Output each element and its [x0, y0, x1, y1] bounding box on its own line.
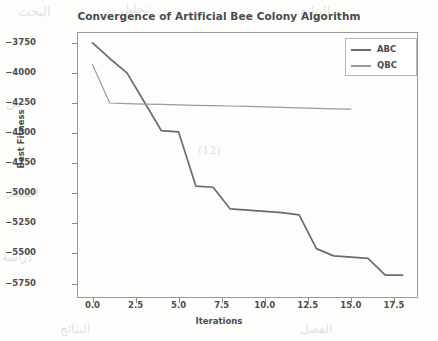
legend-label-qbc: QBC [377, 60, 397, 70]
y-tick-mark [72, 163, 77, 164]
legend-swatch-qbc [351, 65, 371, 67]
y-axis-label: Best Fitness [16, 94, 26, 184]
legend-item-abc[interactable]: ABC [351, 43, 415, 57]
legend-label-abc: ABC [377, 44, 396, 54]
x-tick-label: 2.5 [116, 300, 156, 310]
x-tick-label: 12.5 [288, 300, 328, 310]
y-tick-mark [72, 253, 77, 254]
y-tick-mark [72, 43, 77, 44]
y-tick-mark [72, 193, 77, 194]
legend-swatch-abc [351, 49, 371, 51]
x-tick-label: 10.0 [245, 300, 285, 310]
x-tick-label: 5.0 [159, 300, 199, 310]
y-tick-label: −5250 [5, 217, 36, 227]
y-tick-mark [72, 223, 77, 224]
legend-item-qbc[interactable]: QBC [351, 59, 415, 73]
y-tick-label: −5500 [5, 247, 36, 257]
y-tick-label: −3750 [5, 37, 36, 47]
x-tick-label: 17.5 [374, 300, 414, 310]
y-tick-mark [72, 284, 77, 285]
y-tick-mark [72, 103, 77, 104]
chart-title: Convergence of Artificial Bee Colony Alg… [0, 10, 438, 22]
y-tick-mark [72, 133, 77, 134]
chart-legend[interactable]: ABC QBC [345, 38, 417, 76]
chart-figure: Convergence of Artificial Bee Colony Alg… [0, 0, 438, 341]
x-tick-label: 0.0 [73, 300, 113, 310]
y-tick-label: −4000 [5, 67, 36, 77]
y-tick-mark [72, 73, 77, 74]
y-tick-label: −5000 [5, 187, 36, 197]
y-tick-label: −5750 [5, 278, 36, 288]
x-axis-label: Iterations [0, 316, 438, 326]
x-tick-label: 15.0 [331, 300, 371, 310]
x-tick-label: 7.5 [202, 300, 242, 310]
